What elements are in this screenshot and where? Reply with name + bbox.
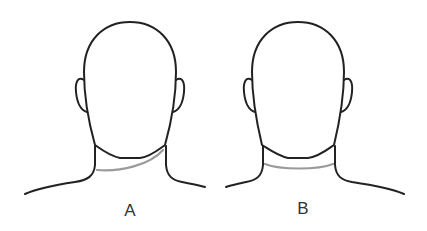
label-b: B [297, 199, 308, 219]
head-b-outline [252, 22, 344, 158]
diagram-canvas [0, 0, 427, 231]
neck-line-b [265, 164, 333, 169]
head-a-outline [84, 22, 176, 158]
figure-a [25, 22, 205, 194]
figure-b [226, 22, 404, 194]
neck-shoulder-left-a [25, 146, 95, 194]
label-a: A [124, 201, 135, 221]
neck-shoulder-right-a [166, 146, 205, 187]
neck-shoulder-left-b [226, 146, 263, 187]
neck-shoulder-right-b [335, 146, 404, 194]
